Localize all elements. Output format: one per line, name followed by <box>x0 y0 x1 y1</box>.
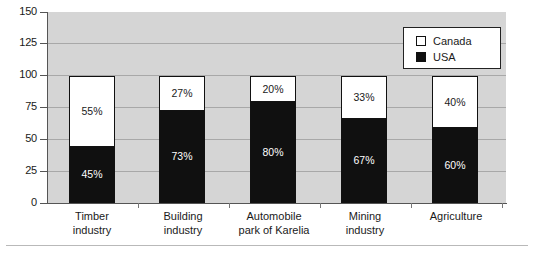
bar-label-canada: 40% <box>444 97 465 108</box>
y-tick-label: 0 <box>31 197 37 208</box>
y-tick-label: 125 <box>19 37 37 48</box>
y-tick-mark-0 <box>40 203 47 204</box>
x-tick-mark-3 <box>320 203 321 208</box>
y-tick-mark-75 <box>40 107 47 108</box>
y-tick-label: 150 <box>19 6 37 17</box>
bar-agriculture[interactable]: 40% 60% <box>432 76 478 203</box>
y-tick-mark-100 <box>40 75 47 76</box>
x-tick-mark-5 <box>502 203 503 208</box>
bar-building-industry[interactable]: 27% 73% <box>159 76 205 203</box>
legend-item-canada[interactable]: Canada <box>416 33 500 49</box>
bar-segment-usa: 80% <box>250 101 296 203</box>
y-axis-line <box>47 12 48 204</box>
y-tick-label: 100 <box>19 69 37 80</box>
x-tick-mark-1 <box>138 203 139 208</box>
bar-mining-industry[interactable]: 33% 67% <box>341 76 387 203</box>
legend-item-usa[interactable]: USA <box>416 49 500 65</box>
white-square-icon <box>416 36 426 46</box>
legend-label-usa: USA <box>433 52 456 63</box>
x-tick-mark-2 <box>229 203 230 208</box>
x-axis-label-line2: industry <box>305 223 425 237</box>
bar-label-usa: 60% <box>444 160 465 171</box>
bar-segment-usa: 60% <box>432 127 478 203</box>
bar-segment-usa: 67% <box>341 118 387 203</box>
bar-segment-canada: 33% <box>341 76 387 118</box>
legend: Canada USA <box>403 27 501 69</box>
y-tick-mark-150 <box>40 12 47 13</box>
y-tick-label: 25 <box>25 165 37 176</box>
bar-label-canada: 55% <box>81 106 102 117</box>
bar-segment-canada: 55% <box>69 76 115 146</box>
bar-label-canada: 33% <box>353 92 374 103</box>
legend-label-canada: Canada <box>433 36 472 47</box>
bar-label-canada: 20% <box>262 84 283 95</box>
bar-segment-usa: 45% <box>69 146 115 203</box>
y-tick-mark-25 <box>40 171 47 172</box>
bar-label-usa: 73% <box>171 151 192 162</box>
bar-automobile-park-of-karelia[interactable]: 20% 80% <box>250 76 296 203</box>
bar-label-usa: 80% <box>262 147 283 158</box>
y-tick-mark-125 <box>40 43 47 44</box>
x-axis-label-agriculture: Agriculture <box>396 209 516 223</box>
y-tick-mark-50 <box>40 139 47 140</box>
black-square-icon <box>416 52 426 62</box>
x-tick-mark-4 <box>411 203 412 208</box>
bar-segment-canada: 27% <box>159 76 205 110</box>
bar-segment-canada: 40% <box>432 76 478 127</box>
x-axis-line <box>47 203 507 204</box>
bar-segment-canada: 20% <box>250 76 296 101</box>
bottom-divider <box>6 245 528 246</box>
bar-label-usa: 67% <box>353 155 374 166</box>
x-axis-label-line1: Agriculture <box>396 209 516 223</box>
bar-label-usa: 45% <box>81 169 102 180</box>
y-tick-label: 50 <box>25 133 37 144</box>
stacked-bar-chart-figure: 55% 45% 27% 73% 20% 80% 33% <box>0 0 534 255</box>
bar-segment-usa: 73% <box>159 110 205 203</box>
y-tick-label: 75 <box>25 101 37 112</box>
bar-timber-industry[interactable]: 55% 45% <box>69 76 115 203</box>
bar-label-canada: 27% <box>171 88 192 99</box>
